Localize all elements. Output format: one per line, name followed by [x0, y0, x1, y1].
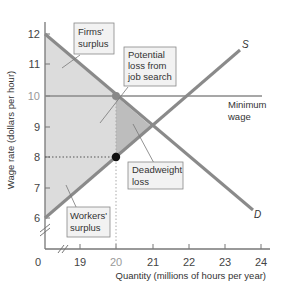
firms-surplus-label-line2: surplus — [78, 38, 109, 49]
potential-loss-label-line1: Potential — [128, 49, 165, 60]
x-tick-labels: 0 19 20 21 22 23 24 — [35, 256, 267, 268]
x-tick-label: 19 — [74, 256, 86, 268]
firms-surplus-label-line1: Firms' — [78, 26, 104, 37]
demand-label: D — [254, 209, 261, 220]
deadweight-loss-label-line1: Deadweight — [132, 164, 183, 175]
potential-loss-label-line2: loss from — [128, 60, 167, 71]
y-tick-label: 12 — [28, 28, 40, 40]
minimum-wage-label-line1: Minimum — [228, 99, 267, 110]
y-axis-title: Wage rate (dollars per hour) — [5, 71, 16, 189]
supply-label: S — [242, 39, 249, 50]
y-tick-label: 10 — [28, 90, 40, 102]
x-tick-label: 23 — [219, 256, 231, 268]
x-tick-label: 22 — [183, 256, 195, 268]
y-tick-label: 9 — [34, 121, 40, 133]
x-tick-label: 20 — [110, 256, 122, 268]
y-tick-labels: 12 11 10 9 8 7 6 — [28, 28, 40, 224]
x-tick-label-zero: 0 — [35, 256, 41, 268]
deadweight-loss-label-line2: loss — [132, 176, 149, 187]
workers-surplus-label-line2: surplus — [70, 222, 101, 233]
y-tick-label: 6 — [34, 212, 40, 224]
y-tick-label: 7 — [34, 182, 40, 194]
y-tick-label: 11 — [29, 58, 40, 70]
y-tick-label: 8 — [34, 151, 40, 163]
supply-point — [112, 153, 120, 161]
labor-market-chart: 12 11 10 9 8 7 6 0 19 20 21 22 23 24 Qua… — [0, 0, 285, 290]
x-tick-label: 24 — [255, 256, 267, 268]
x-tick-label: 21 — [147, 256, 159, 268]
potential-loss-label-line3: job search — [127, 71, 172, 82]
x-ticks — [80, 244, 261, 249]
workers-surplus-label-line1: Workers' — [70, 210, 107, 221]
minimum-wage-label-line2: wage — [227, 111, 251, 122]
x-axis-title: Quantity (millions of hours per year) — [116, 270, 266, 281]
